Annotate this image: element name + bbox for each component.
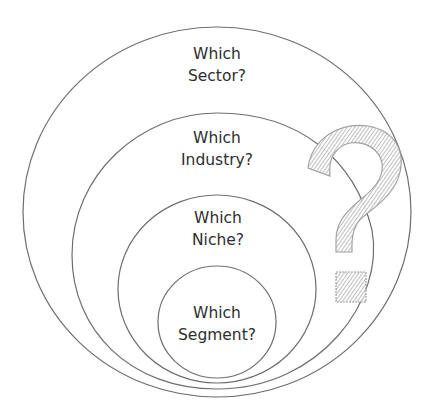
- sector-label: Which Sector?: [188, 43, 246, 87]
- industry-label-line2: Industry?: [181, 149, 253, 171]
- segment-label: Which Segment?: [178, 302, 256, 346]
- niche-label-line2: Niche?: [192, 229, 244, 251]
- industry-label-line1: Which: [181, 127, 253, 149]
- segment-label-line1: Which: [178, 302, 256, 324]
- sector-label-line2: Sector?: [188, 65, 246, 87]
- niche-label-line1: Which: [192, 207, 244, 229]
- sector-label-line1: Which: [188, 43, 246, 65]
- niche-label: Which Niche?: [192, 207, 244, 251]
- question-mark-icon: [308, 125, 401, 302]
- segment-label-line2: Segment?: [178, 324, 256, 346]
- industry-label: Which Industry?: [181, 127, 253, 171]
